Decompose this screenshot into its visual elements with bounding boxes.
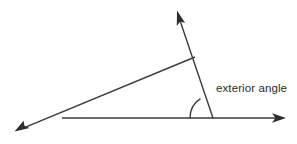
- diagram-canvas: exterior angle: [0, 0, 297, 144]
- transversal-ray: [179, 19, 213, 119]
- exterior-angle-label: exterior angle: [216, 82, 287, 94]
- geometry-figure: exterior angle: [0, 0, 297, 144]
- exterior-angle-arc: [190, 99, 201, 118]
